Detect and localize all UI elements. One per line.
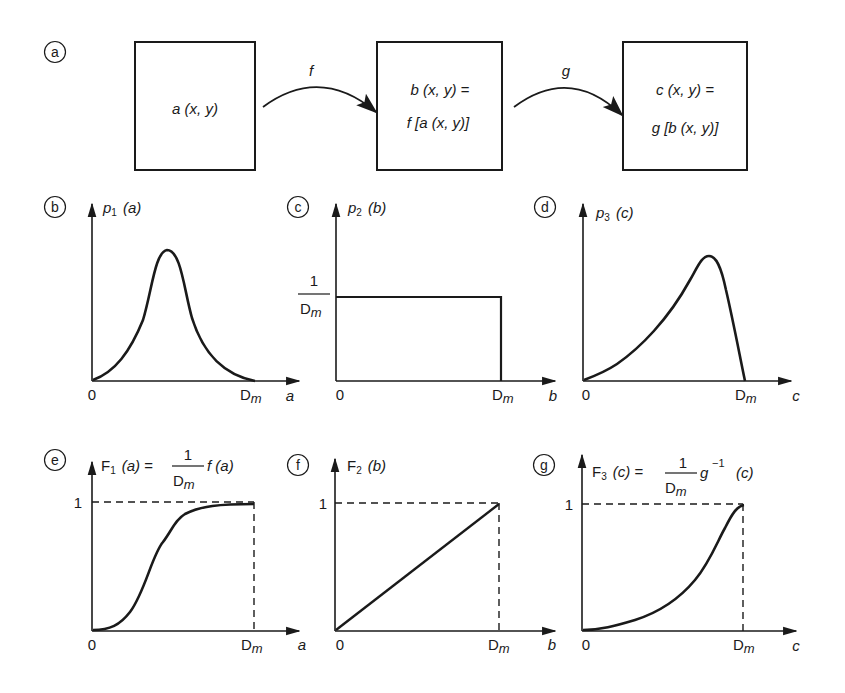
histogram-curve xyxy=(93,250,255,381)
y-axis-label: p2(b) xyxy=(347,199,386,218)
y-axis-label: F1(a) = xyxy=(101,457,153,476)
x-max-label: Dm xyxy=(492,386,514,406)
panel-label: b xyxy=(51,199,59,215)
plot-d-output-histogram: d p3(c) 0 Dm c xyxy=(535,197,801,407)
arrow-g xyxy=(514,88,622,115)
origin-label: 0 xyxy=(582,636,590,653)
origin-label: 0 xyxy=(336,386,344,403)
x-axis-var: b xyxy=(548,636,556,653)
y-axis-label: F2(b) xyxy=(347,457,386,476)
y-axis-label-tail: g xyxy=(700,464,709,481)
y-tick-1: 1 xyxy=(74,494,82,511)
x-max-label: Dm xyxy=(733,636,755,656)
origin-label: 0 xyxy=(88,386,96,403)
x-axis-var: c xyxy=(792,637,800,654)
cumulative-curve xyxy=(93,504,254,630)
fraction-denominator: Dm xyxy=(173,472,195,492)
box-transformed-line2: f [a (x, y)] xyxy=(407,114,470,131)
cumulative-line xyxy=(336,504,499,630)
arrow-f-label: f xyxy=(309,62,315,79)
panel-label: g xyxy=(540,457,548,473)
panel-a: a a (x, y) b (x, y) = f [a (x, y)] c (x,… xyxy=(45,42,748,171)
origin-label: 0 xyxy=(88,636,96,653)
y-axis-label-tail: f (a) xyxy=(207,457,234,474)
panel-label: c xyxy=(295,199,302,215)
panel-label: a xyxy=(51,44,59,60)
box-input-text: a (x, y) xyxy=(172,100,218,117)
fraction-numerator: 1 xyxy=(679,454,687,471)
histogram-curve xyxy=(584,256,745,381)
fraction-denominator: Dm xyxy=(665,479,687,499)
y-tick-denominator: Dm xyxy=(300,300,322,320)
arrow-g-label: g xyxy=(562,62,571,79)
arrow-f xyxy=(263,87,376,112)
box-transformed-image xyxy=(377,42,502,170)
box-output-line1: c (x, y) = xyxy=(656,81,714,98)
y-axis-label-superscript: −1 xyxy=(712,457,725,469)
x-max-label: Dm xyxy=(241,636,263,656)
box-transformed-line1: b (x, y) = xyxy=(411,81,470,98)
plot-c-uniform-histogram: c p2(b) 1 Dm 0 Dm b xyxy=(288,197,558,407)
origin-label: 0 xyxy=(582,386,590,403)
y-axis-label: p3(c) xyxy=(595,204,633,223)
histogram-step xyxy=(336,297,501,381)
y-axis-label: p1(a) xyxy=(102,199,141,218)
histogram-transformation-figure: a a (x, y) b (x, y) = f [a (x, y)] c (x,… xyxy=(0,0,845,693)
box-output-line2: g [b (x, y)] xyxy=(652,119,720,136)
x-axis-var: a xyxy=(298,636,306,653)
y-tick-1: 1 xyxy=(565,496,573,513)
plot-g-cumulative-output: g F3(c) = 1 Dm g −1 (c) 1 0 Dm c xyxy=(534,454,801,656)
origin-label: 0 xyxy=(336,636,344,653)
y-tick-numerator: 1 xyxy=(310,272,318,289)
y-tick-1: 1 xyxy=(319,495,327,512)
y-axis-label: F3(c) = xyxy=(592,463,643,482)
box-output-image xyxy=(623,42,747,170)
x-axis-var: c xyxy=(792,387,800,404)
cumulative-curve xyxy=(583,505,744,630)
fraction-numerator: 1 xyxy=(184,446,192,463)
x-max-label: Dm xyxy=(488,636,510,656)
x-axis-var: a xyxy=(286,387,294,404)
y-axis-label-arg: (c) xyxy=(736,464,754,481)
x-max-label: Dm xyxy=(240,386,262,406)
plot-f-cumulative-uniform: f F2(b) 1 0 Dm b xyxy=(288,455,557,657)
panel-label: f xyxy=(296,457,300,473)
panel-label: e xyxy=(51,452,59,468)
plot-e-cumulative-input: e F1(a) = 1 Dm f (a) 1 0 Dm a xyxy=(45,446,307,656)
x-max-label: Dm xyxy=(735,386,757,406)
x-axis-var: b xyxy=(549,387,557,404)
plot-b-input-histogram: b p1(a) 0 Dm a xyxy=(45,197,300,407)
panel-label: d xyxy=(541,199,549,215)
